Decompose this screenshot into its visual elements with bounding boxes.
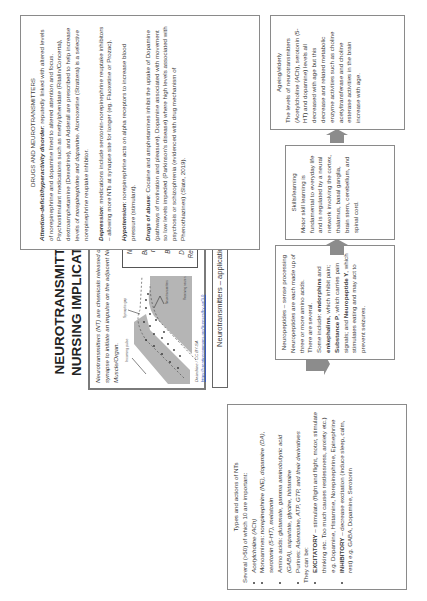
svg-text:Neurotransmitters: Neurotransmitters [165, 280, 169, 304]
abuse-paragraph: Drugs of abuse: Cocaine and amphetamines… [144, 24, 188, 241]
kinds-list: EXCITATORY – stimulate (flight and fligh… [311, 411, 355, 583]
excitatory-item: EXCITATORY – stimulate (flight and fligh… [311, 411, 337, 573]
inhibitory-item: INHIBITORY – decrease excitation (induce… [338, 411, 356, 573]
ageing-text: The levels of neurotransmitters (Acetylc… [284, 22, 363, 123]
types-panel: Types and actions of NTs Several (>50) o… [227, 404, 407, 590]
types-intro: Several (>50) of which 10 are important: [241, 411, 250, 583]
svg-text:Incoming pulse: Incoming pulse [125, 338, 129, 362]
credit-link[interactable]: https://creativecommons.org/licenses/by-… [200, 262, 206, 382]
svg-text:Receiving neuron: Receiving neuron [183, 276, 187, 300]
adhd-paragraph: Attention-deficit/hyperactivity disorder… [38, 24, 91, 241]
poster: Types and actions of NTs Several (>50) o… [0, 0, 427, 601]
neuropeptides-panel: Neuropeptides – sense processing Neurope… [275, 245, 395, 360]
synapse-diagram: Incoming pulse Synaptic gap Neurotransmi… [120, 276, 196, 384]
neuropeptides-heading: Neuropeptides – sense processing [280, 252, 289, 353]
skills-panel: Skills/learning Motor skill learning is … [285, 145, 395, 240]
svg-text:Synaptic gap: Synaptic gap [123, 298, 127, 318]
types-list: Acetylcholine (ACh) Monoamines: norepine… [250, 411, 303, 583]
skills-text: Motor skill learning is fundamental to e… [299, 152, 361, 233]
skills-heading: Skills/learning [290, 152, 299, 233]
ageing-panel: Ageing/elderly The levels of neurotransm… [270, 15, 405, 130]
types-item: Amino acids: glutamate, gamma aminobutyr… [276, 411, 294, 573]
drugs-heading: DRUGS AND NEUROTRANSMITTERS [29, 24, 38, 241]
ageing-heading: Ageing/elderly [275, 22, 284, 123]
depression-paragraph: Depression: medications include serotoni… [97, 24, 115, 241]
they-can-be: They can be: [302, 411, 311, 583]
types-item: Purines: Adenosine, ATP, GTP, and their … [294, 411, 303, 573]
hypotension-paragraph: Hypotension: norepinephrine acts on alph… [120, 24, 138, 241]
neuropeptides-text: Neuropeptides are each made up of three … [289, 252, 368, 353]
drugs-panel: DRUGS AND NEUROTRANSMITTERS Attention-de… [20, 15, 260, 250]
types-item: Acetylcholine (ACh) [250, 411, 259, 573]
image-credit: Dwindrine / CC BY-SA https://creativecom… [194, 262, 206, 382]
types-item: Monoamines: norepinephrine (NE), dopamin… [258, 411, 276, 573]
types-heading: Types and actions of NTs [232, 411, 241, 583]
arrow-right-icon [330, 135, 344, 143]
arrow-right-icon [330, 245, 344, 255]
